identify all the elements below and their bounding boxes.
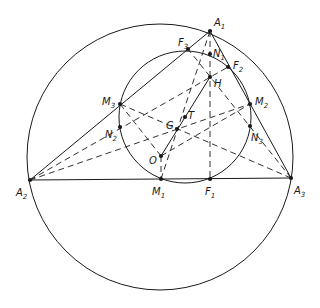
geometry-figure: A1A2A3M1M2M3F1F2F3N1N2N3HGTO [0, 0, 320, 308]
label-o: O [149, 155, 157, 166]
label-m3: M3 [102, 96, 115, 110]
point-m3 [118, 102, 122, 106]
label-f1: F1 [205, 186, 215, 200]
point-a2 [28, 178, 32, 182]
label-f3: F3 [178, 37, 188, 51]
label-h: H [214, 78, 222, 89]
label-m2: M2 [255, 96, 269, 110]
label-a2: A2 [15, 187, 28, 201]
point-a3 [289, 176, 293, 180]
point-n3 [248, 124, 252, 128]
label-t: T [188, 110, 195, 121]
dashed-a3-m3 [120, 104, 291, 178]
label-f2: F2 [233, 60, 244, 74]
point-a1 [208, 29, 212, 33]
point-t [183, 115, 187, 119]
point-m1 [159, 177, 163, 181]
dashed-a2-f2 [30, 67, 228, 180]
point-n1 [208, 52, 212, 56]
dashed-o-m3 [120, 104, 161, 156]
point-f2 [226, 65, 230, 69]
point-o [159, 154, 163, 158]
label-n2: N2 [105, 129, 117, 143]
nine-point-circle-diagram: A1A2A3M1M2M3F1F2F3N1N2N3HGTO [0, 0, 320, 308]
label-a1: A1 [213, 17, 225, 31]
label-m1: M1 [152, 186, 165, 200]
point-h [208, 75, 212, 79]
point-g [175, 127, 179, 131]
label-g: G [166, 120, 174, 131]
point-f1 [208, 177, 212, 181]
label-n3: N3 [251, 132, 263, 146]
label-a3: A3 [293, 185, 305, 199]
point-m2 [248, 102, 252, 106]
point-n2 [118, 125, 122, 129]
labels-group: A1A2A3M1M2M3F1F2F3N1N2N3HGTO [15, 17, 305, 201]
dashed-a2-m2 [30, 104, 250, 180]
